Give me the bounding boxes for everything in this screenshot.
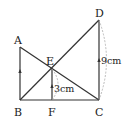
parallel-arrow-AB	[18, 69, 21, 73]
measurement-CD: 9cm	[101, 55, 121, 66]
label-C: C	[95, 106, 103, 119]
label-E: E	[46, 55, 54, 68]
geometry-diagram: A B C D E F 3cm 9cm	[0, 0, 133, 123]
label-A: A	[13, 34, 23, 47]
label-D: D	[95, 7, 104, 20]
label-B: B	[14, 106, 22, 119]
label-F: F	[48, 106, 56, 119]
measurement-EF: 3cm	[54, 83, 74, 94]
